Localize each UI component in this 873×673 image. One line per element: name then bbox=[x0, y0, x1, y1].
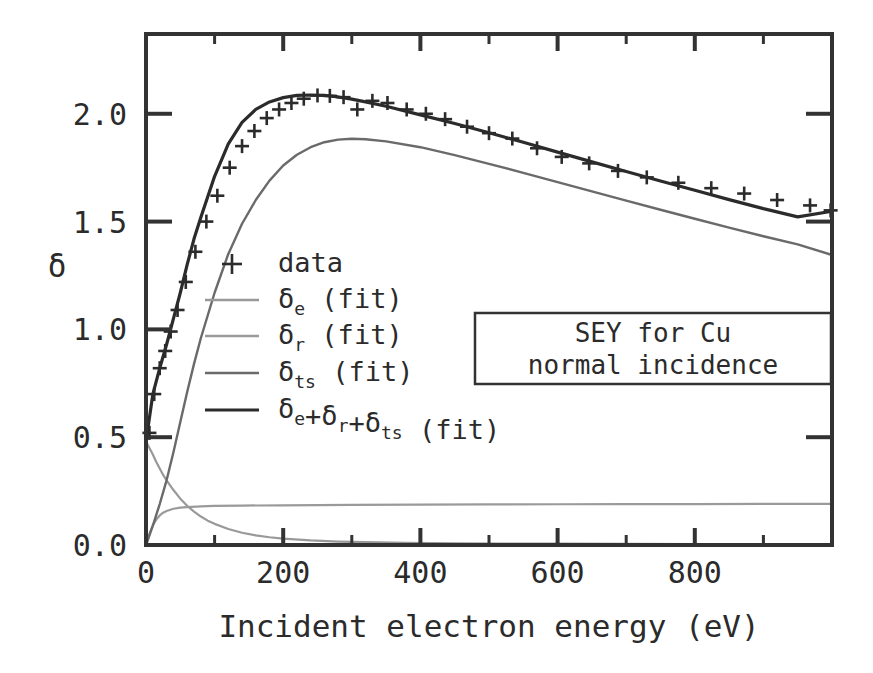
y-tick-label: 1.0 bbox=[73, 312, 127, 347]
data-point-marker bbox=[158, 344, 172, 358]
legend-suffix: (fit) bbox=[316, 356, 414, 387]
data-point-marker bbox=[323, 89, 337, 103]
data-point-marker bbox=[311, 88, 325, 102]
data-point-marker bbox=[223, 161, 237, 175]
data-point-marker bbox=[438, 112, 452, 126]
data-point-marker bbox=[611, 164, 625, 178]
legend-entry-1: δe (fit) bbox=[205, 283, 403, 319]
annotation-line-2: normal incidence bbox=[528, 350, 778, 380]
y-tick-label: 2.0 bbox=[73, 97, 127, 132]
legend-entry-4: δe+δr+δts (fit) bbox=[205, 393, 500, 445]
plot-frame bbox=[146, 34, 832, 545]
y-tick-label: 1.5 bbox=[73, 205, 127, 240]
data-point-marker bbox=[247, 124, 261, 138]
data-point-marker bbox=[505, 132, 519, 146]
data-point-marker bbox=[235, 139, 249, 153]
legend-subscript: r bbox=[338, 415, 349, 436]
legend-suffix: (fit) bbox=[305, 319, 403, 350]
x-tick-label: 0 bbox=[137, 555, 155, 590]
legend-symbol: δ bbox=[278, 356, 294, 387]
data-point-marker bbox=[272, 102, 286, 116]
data-point-marker bbox=[460, 120, 474, 134]
legend-suffix: (fit) bbox=[403, 414, 501, 445]
legend-entry-0: data bbox=[222, 247, 343, 278]
data-point-marker bbox=[770, 193, 784, 207]
legend-subscript: r bbox=[294, 334, 305, 355]
legend-subscript: e bbox=[294, 408, 305, 429]
legend-symbol: δ bbox=[278, 393, 294, 424]
legend-entry-2: δr (fit) bbox=[205, 319, 403, 355]
legend-subscript: e bbox=[294, 298, 305, 319]
data-point-marker bbox=[210, 189, 224, 203]
x-tick-label: 800 bbox=[668, 555, 722, 590]
y-tick-label: 0.5 bbox=[73, 420, 127, 455]
sey-chart: 02004006008000.00.51.01.52.0 Incident el… bbox=[0, 0, 873, 673]
legend-symbol: δ bbox=[278, 319, 294, 350]
y-axis-title: δ bbox=[48, 248, 67, 284]
data-markers-layer bbox=[142, 88, 837, 439]
legend-subscript: ts bbox=[381, 422, 403, 443]
legend: dataδe (fit)δr (fit)δts (fit)δe+δr+δts (… bbox=[205, 247, 500, 445]
legend-entry-label: data bbox=[278, 247, 343, 278]
axes-layer bbox=[146, 34, 832, 545]
legend-entry-label: δts (fit) bbox=[278, 356, 414, 392]
data-point-marker bbox=[400, 102, 414, 116]
legend-symbol: δ bbox=[278, 283, 294, 314]
x-axis-title: Incident electron energy (eV) bbox=[218, 608, 759, 644]
data-point-marker bbox=[350, 102, 364, 116]
legend-entry-3: δts (fit) bbox=[205, 356, 414, 392]
data-point-marker bbox=[337, 90, 351, 104]
legend-symbol: +δ bbox=[348, 407, 381, 438]
data-point-marker bbox=[803, 198, 817, 212]
legend-subscript: ts bbox=[294, 371, 316, 392]
legend-entry-label: δe (fit) bbox=[278, 283, 403, 319]
x-tick-label: 600 bbox=[531, 555, 585, 590]
x-tick-label: 400 bbox=[393, 555, 447, 590]
y-tick-label: 0.0 bbox=[73, 528, 127, 563]
data-point-marker bbox=[640, 170, 654, 184]
legend-symbol: +δ bbox=[305, 400, 338, 431]
legend-entry-label: δe+δr+δts (fit) bbox=[278, 393, 500, 445]
data-point-marker bbox=[260, 111, 274, 125]
legend-suffix: (fit) bbox=[305, 283, 403, 314]
data-point-marker bbox=[171, 303, 185, 317]
data-point-marker bbox=[482, 126, 496, 140]
x-tick-label: 200 bbox=[256, 555, 310, 590]
annotation-box: SEY for Cu normal incidence bbox=[475, 313, 831, 384]
annotation-line-1: SEY for Cu bbox=[575, 318, 732, 348]
data-point-marker bbox=[164, 325, 178, 339]
figure-root: 02004006008000.00.51.01.52.0 Incident el… bbox=[0, 0, 873, 673]
data-point-marker bbox=[147, 387, 161, 401]
data-point-marker bbox=[737, 187, 751, 201]
legend-entry-label: δr (fit) bbox=[278, 319, 403, 355]
series-curve-0 bbox=[146, 442, 832, 545]
data-point-marker bbox=[153, 361, 167, 375]
